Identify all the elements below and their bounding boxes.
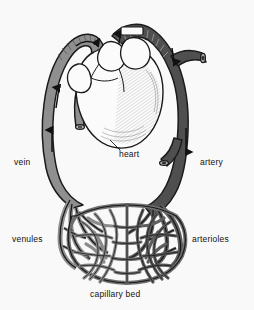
circulatory-system-diagram: vein artery heart venules arterioles cap… [0,0,254,310]
label-arterioles: arterioles [192,235,229,244]
heart-pulmonary-trunk [121,38,150,69]
heart-vessel-stub [121,27,143,35]
artery-branch-cut-end [201,53,206,62]
label-venules: venules [12,235,43,244]
label-vein: vein [14,158,30,167]
heart-left-auricle [67,64,91,93]
label-artery: artery [200,158,223,167]
artery-lower-cut-end [160,161,169,166]
label-heart: heart [119,150,139,159]
label-capillary-bed: capillary bed [90,290,140,299]
vein-cut-end [76,125,85,130]
